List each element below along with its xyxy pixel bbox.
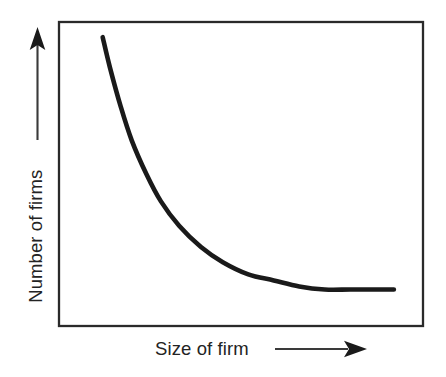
x-axis-arrow-icon bbox=[275, 341, 367, 357]
y-axis-arrow-icon bbox=[30, 27, 46, 140]
chart-figure: Number of firms Size of firm bbox=[0, 0, 446, 377]
plot-area-frame bbox=[59, 22, 423, 326]
chart-canvas bbox=[0, 0, 446, 377]
